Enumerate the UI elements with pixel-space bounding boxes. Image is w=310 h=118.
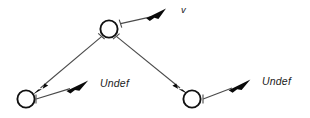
pointer-right-to-undef — [203, 79, 250, 103]
pointer-root-to-v-shaft — [121, 17, 152, 24]
pointer-left-to-undef-shaft — [36, 89, 70, 99]
diagram-svg: v Undef Undef — [0, 0, 310, 118]
pointer-left-to-undef-arrowhead — [66, 81, 88, 94]
root-node[interactable] — [100, 20, 117, 37]
right-node[interactable] — [183, 90, 200, 107]
pointer-right-to-undef-arrowhead — [229, 79, 251, 92]
pointer-right-to-undef-shaft — [203, 88, 232, 99]
label-v: v — [181, 4, 187, 15]
label-undef-left: Undef — [100, 77, 130, 89]
left-node[interactable] — [17, 90, 34, 107]
pointer-root-to-v-arrowhead — [146, 9, 166, 21]
edge-root-to-left — [33, 33, 105, 94]
diagram-canvas: v Undef Undef — [0, 0, 310, 118]
pointer-root-to-v — [119, 9, 166, 28]
edge-root-to-left-shaft — [41, 36, 102, 88]
label-undef-right: Undef — [262, 75, 292, 87]
edge-root-to-left-arrowhead — [33, 84, 49, 95]
pointer-left-to-undef — [36, 81, 88, 104]
